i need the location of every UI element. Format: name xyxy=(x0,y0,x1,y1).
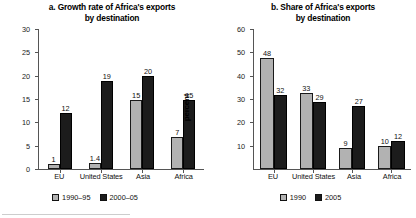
panel-a-bar-groups: 1121.4191520715 xyxy=(39,30,204,169)
y-tick-label: 60 xyxy=(237,25,245,34)
bar-value-label: 12 xyxy=(394,132,402,141)
x-axis-category-label: EU xyxy=(254,172,292,181)
bar-value-label: 33 xyxy=(302,84,310,93)
panel-a-plot-area: 051015202530 1121.4191520715 xyxy=(38,30,204,170)
y-tick-label: 30 xyxy=(237,95,245,104)
bar-group: 112 xyxy=(39,30,80,169)
bar-group: 927 xyxy=(333,30,372,169)
bar-group: 1012 xyxy=(372,30,411,169)
bar-value-label: 10 xyxy=(381,137,389,146)
panel-b-title-line1: b. Share of Africa's exports xyxy=(271,2,375,12)
x-axis-category-label: United States xyxy=(80,172,123,181)
x-axis-category-label: United States xyxy=(292,172,335,181)
x-axis-category-label: Asia xyxy=(335,172,373,181)
bar-value-label: 7 xyxy=(175,128,179,137)
legend-label: 2000–05 xyxy=(110,193,138,202)
legend-swatch-icon xyxy=(280,194,287,201)
chart-panel-b: b. Share of Africa's exports by destinat… xyxy=(208,0,416,218)
panel-b-legend: 19902005 xyxy=(248,193,373,202)
legend-swatch-icon xyxy=(52,194,59,201)
panel-a-legend: 1990–952000–05 xyxy=(30,193,160,202)
bar-value-label: 9 xyxy=(343,139,347,148)
y-tick-label: 15 xyxy=(22,95,30,104)
bar[interactable]: 7 xyxy=(171,137,183,169)
panel-b-title-line2: by destination xyxy=(296,13,351,23)
legend-label: 2005 xyxy=(325,193,341,202)
bar-group: 3329 xyxy=(293,30,332,169)
legend-item[interactable]: 1990 xyxy=(280,193,306,202)
bar[interactable]: 29 xyxy=(313,102,326,169)
bar[interactable]: 32 xyxy=(274,95,287,169)
panel-a-title-line2: by destination xyxy=(85,13,140,23)
legend-swatch-icon xyxy=(100,194,107,201)
bar[interactable]: 1 xyxy=(48,164,60,169)
y-tick-label: 5 xyxy=(26,141,30,150)
panel-a-x-axis-line xyxy=(38,169,204,170)
panel-b-y-axis-title: percent xyxy=(182,94,191,122)
panel-b-bar-groups: 483233299271012 xyxy=(254,30,411,169)
x-axis-category-label: Africa xyxy=(163,172,204,181)
y-tick-label: 50 xyxy=(237,48,245,57)
y-tick-label: 25 xyxy=(22,48,30,57)
bar[interactable]: 1.4 xyxy=(89,163,101,169)
y-tick-label: 0 xyxy=(26,165,30,174)
bar-value-label: 1.4 xyxy=(90,154,100,163)
panel-a-title-line1: a. Growth rate of Africa's exports xyxy=(49,2,175,12)
legend-label: 1990–95 xyxy=(62,193,90,202)
bar-value-label: 1 xyxy=(52,155,56,164)
bar[interactable]: 48 xyxy=(260,58,273,169)
bar-value-label: 20 xyxy=(144,67,152,76)
bar-value-label: 15 xyxy=(132,91,140,100)
bar-group: 4832 xyxy=(254,30,293,169)
bar[interactable]: 10 xyxy=(378,146,391,169)
panel-b-title: b. Share of Africa's exports by destinat… xyxy=(214,2,412,24)
bar[interactable]: 15 xyxy=(130,100,142,170)
figure-two-panel-bar-charts: a. Growth rate of Africa's exports by de… xyxy=(0,0,416,218)
panel-b-x-axis-labels: EUUnited StatesAsiaAfrica xyxy=(254,172,411,181)
bar-value-label: 27 xyxy=(355,97,363,106)
panel-b-x-axis-line xyxy=(253,169,411,170)
bar[interactable]: 19 xyxy=(101,81,113,169)
bar-group: 1520 xyxy=(122,30,163,169)
y-tick-label: 20 xyxy=(237,118,245,127)
panel-b-plot-area: 102030405060 483233299271012 xyxy=(253,30,411,170)
y-tick-label: 20 xyxy=(22,71,30,80)
bar-value-label: 29 xyxy=(315,93,323,102)
bar[interactable]: 9 xyxy=(339,148,352,169)
x-axis-category-label: Africa xyxy=(373,172,411,181)
panel-a-x-axis-labels: EUUnited StatesAsiaAfrica xyxy=(39,172,204,181)
x-axis-category-label: EU xyxy=(39,172,80,181)
bar-value-label: 48 xyxy=(263,49,271,58)
bar[interactable]: 33 xyxy=(300,93,313,169)
y-tick-mark: 0 xyxy=(35,169,39,170)
bar-value-label: 32 xyxy=(276,86,284,95)
bar[interactable]: 12 xyxy=(60,113,72,169)
chart-panel-a: a. Growth rate of Africa's exports by de… xyxy=(0,0,208,218)
bar-value-label: 19 xyxy=(103,72,111,81)
panel-a-title: a. Growth rate of Africa's exports by de… xyxy=(6,2,204,24)
bar[interactable]: 27 xyxy=(352,106,365,169)
y-tick-label: 30 xyxy=(22,25,30,34)
legend-swatch-icon xyxy=(315,194,322,201)
bar-group: 1.419 xyxy=(80,30,121,169)
x-axis-category-label: Asia xyxy=(123,172,164,181)
bar[interactable]: 20 xyxy=(142,76,154,169)
y-tick-label: 10 xyxy=(237,141,245,150)
bar[interactable]: 12 xyxy=(391,141,404,169)
legend-item[interactable]: 2000–05 xyxy=(100,193,138,202)
legend-item[interactable]: 2005 xyxy=(315,193,341,202)
y-tick-label: 10 xyxy=(22,118,30,127)
y-tick-label: 40 xyxy=(237,71,245,80)
legend-item[interactable]: 1990–95 xyxy=(52,193,90,202)
legend-label: 1990 xyxy=(290,193,306,202)
bottom-divider-rule xyxy=(2,214,130,215)
bar-value-label: 12 xyxy=(62,104,70,113)
